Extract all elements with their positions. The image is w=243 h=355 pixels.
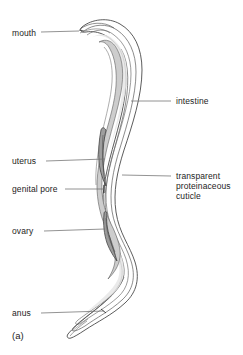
label-mouth: mouth — [12, 28, 36, 38]
label-anus: anus — [12, 308, 31, 318]
label-uterus: uterus — [12, 156, 36, 166]
ovary-leader — [44, 229, 105, 231]
leader-lines — [41, 31, 171, 313]
label-cuticle: transparent proteinaceous cuticle — [176, 171, 231, 201]
panel-letter: (a) — [12, 330, 24, 341]
mouth-leader — [41, 31, 79, 32]
label-intestine: intestine — [176, 96, 209, 106]
label-ovary: ovary — [12, 226, 33, 236]
label-genital-pore: genital pore — [12, 184, 58, 194]
cuticle-leader — [122, 175, 171, 176]
nematode-anatomy-figure: mouth intestine uterus genital pore tran… — [0, 0, 243, 355]
uterus-leader — [46, 159, 105, 161]
